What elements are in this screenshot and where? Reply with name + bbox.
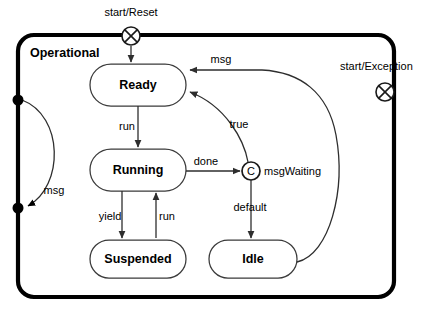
entry-point-label-start-reset: start/Reset xyxy=(104,6,157,18)
transition-suspended-to-running: run xyxy=(156,193,175,238)
operational-region-label: Operational xyxy=(30,46,99,60)
junction-point-top[interactable] xyxy=(13,95,24,106)
state-diagram-canvas: Operational msg start/Reset start/Except… xyxy=(0,0,431,312)
transition-ready-to-running: run xyxy=(119,106,138,147)
transition-label-yield: yield xyxy=(99,210,122,222)
transition-label-run-up: run xyxy=(159,210,175,222)
transition-choice-to-idle: default xyxy=(233,180,266,238)
state-ready-label: Ready xyxy=(119,78,157,92)
transition-label-default: default xyxy=(233,201,266,213)
state-running[interactable]: Running xyxy=(90,149,186,191)
state-suspended-label: Suspended xyxy=(104,252,171,266)
entry-point-start-exception[interactable]: start/Exception xyxy=(340,60,413,101)
transition-label-run-down: run xyxy=(119,120,135,132)
state-suspended[interactable]: Suspended xyxy=(90,240,186,278)
transition-running-to-choice: done xyxy=(186,155,240,171)
choice-pseudostate-letter: C xyxy=(247,165,255,177)
left-border-junctions[interactable]: msg xyxy=(13,95,65,214)
state-idle[interactable]: Idle xyxy=(209,240,297,278)
transition-running-to-suspended: yield xyxy=(99,191,122,238)
state-ready[interactable]: Ready xyxy=(90,64,186,106)
choice-pseudostate-msgwaiting[interactable]: C msgWaiting xyxy=(242,162,321,180)
uml-state-machine-diagram: Operational msg start/Reset start/Except… xyxy=(0,0,431,312)
state-running-label: Running xyxy=(113,163,164,177)
transition-label-done: done xyxy=(194,155,218,167)
transition-label-true: true xyxy=(230,118,249,130)
transition-choice-to-ready: true xyxy=(190,92,248,162)
junction-point-bottom[interactable] xyxy=(13,203,24,214)
entry-point-label-start-exception: start/Exception xyxy=(340,60,413,72)
transition-label-msg-junction: msg xyxy=(44,184,65,196)
state-idle-label: Idle xyxy=(242,252,264,266)
choice-pseudostate-label: msgWaiting xyxy=(264,165,321,177)
transition-label-msg: msg xyxy=(211,53,232,65)
